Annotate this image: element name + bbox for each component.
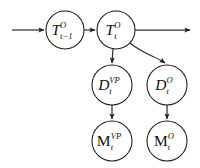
node-d-vp-superscript: VP — [109, 75, 120, 85]
node-t-prev-subscript: t−1 — [60, 31, 72, 41]
node-d-vp-base: D — [97, 76, 109, 93]
node-d-o-circle — [147, 65, 187, 105]
edge-t-current-to-d-vp — [112, 49, 113, 63]
nodes-layer: TOt−1TOtDVPtDOtMVPtMOt — [46, 11, 187, 161]
node-d-vp: DVPt — [92, 65, 132, 105]
node-t-current: TOt — [97, 11, 135, 49]
node-m-o: MOt — [147, 121, 187, 161]
diagram-canvas: TOt−1TOtDVPtDOtMVPtMOt — [0, 0, 200, 168]
node-m-vp: MVPt — [92, 121, 132, 161]
node-m-o-superscript: O — [168, 131, 174, 141]
graph-svg: TOt−1TOtDVPtDOtMVPtMOt — [0, 0, 200, 168]
node-t-current-superscript: O — [114, 20, 120, 30]
node-m-vp-superscript: VP — [111, 131, 122, 141]
node-m-vp-base: M — [97, 132, 111, 149]
node-d-o-base: D — [154, 76, 166, 93]
node-t-prev-superscript: O — [60, 20, 66, 30]
node-t-prev: TOt−1 — [46, 11, 84, 49]
node-d-o: DOt — [147, 65, 187, 105]
node-d-o-superscript: O — [166, 75, 172, 85]
edge-t-current-to-d-o — [130, 43, 165, 63]
node-t-current-circle — [97, 11, 135, 49]
node-m-o-base: M — [154, 132, 168, 149]
